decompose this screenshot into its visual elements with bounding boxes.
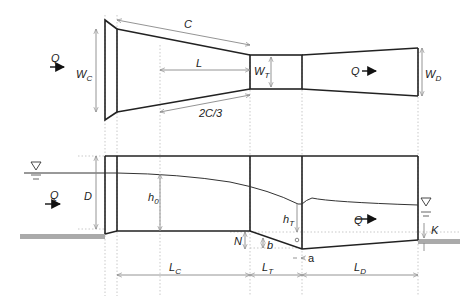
label-q-plan-right: Q bbox=[351, 65, 360, 77]
label-q-profile-right: Q bbox=[354, 214, 363, 226]
label-lt: LT bbox=[262, 261, 274, 276]
label-wt: WT bbox=[254, 65, 270, 80]
label-n: N bbox=[234, 235, 242, 247]
label-d: D bbox=[84, 190, 92, 202]
profile-guides bbox=[78, 156, 460, 248]
label-h0: h0 bbox=[148, 191, 159, 206]
profile-view: Q D h0 hT Q N b a K LC LT LD bbox=[20, 156, 460, 276]
label-wc: WC bbox=[76, 68, 92, 83]
label-ht: hT bbox=[283, 213, 295, 228]
label-l: L bbox=[196, 57, 202, 69]
label-a: a bbox=[308, 252, 315, 264]
label-ld: LD bbox=[354, 261, 366, 276]
parshall-flume-diagram: Q WC C L 2C/3 WT Q WD bbox=[0, 0, 461, 296]
label-b: b bbox=[267, 239, 273, 251]
water-level-icon bbox=[421, 198, 431, 216]
label-q-plan-left: Q bbox=[51, 52, 60, 64]
water-level-icon bbox=[31, 162, 41, 179]
label-k: K bbox=[431, 224, 439, 236]
label-q-profile-left: Q bbox=[50, 189, 59, 201]
label-2c3: 2C/3 bbox=[198, 107, 223, 119]
point-marker bbox=[295, 238, 299, 242]
label-c: C bbox=[184, 18, 192, 30]
label-wd: WD bbox=[425, 68, 441, 83]
upstream-ground bbox=[20, 234, 105, 239]
label-lc: LC bbox=[169, 261, 181, 276]
